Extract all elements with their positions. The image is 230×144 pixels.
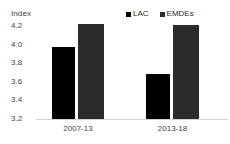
x-axis-tick-label: 2007-13 xyxy=(52,124,104,133)
legend-item-label: LAC xyxy=(133,10,149,18)
x-axis-line xyxy=(36,119,228,120)
x-axis-tick-label: 2013-18 xyxy=(146,124,199,133)
legend: LAC EMDEs xyxy=(126,10,194,18)
y-axis-tick-label: 3.8 xyxy=(11,58,33,67)
legend-item-lac[interactable]: LAC xyxy=(126,10,149,18)
bar-emdes-2007-13 xyxy=(78,24,104,119)
bar-lac-2013-18 xyxy=(146,74,170,119)
y-axis-tick-label: 3.6 xyxy=(11,77,33,86)
legend-swatch-icon xyxy=(160,12,165,17)
legend-item-label: EMDEs xyxy=(167,10,194,18)
y-axis-tick-label: 3.2 xyxy=(11,114,33,123)
bar-chart: Index 4.2 4.0 3.8 3.6 3.4 3.2 2007-13 20… xyxy=(0,0,230,144)
bar-emdes-2013-18 xyxy=(173,25,199,119)
y-axis-tick-label: 4.2 xyxy=(11,21,33,30)
plot-area xyxy=(36,20,226,119)
legend-swatch-icon xyxy=(126,12,131,17)
y-axis-tick-label: 3.4 xyxy=(11,95,33,104)
bar-lac-2007-13 xyxy=(52,47,75,119)
legend-item-emdes[interactable]: EMDEs xyxy=(160,10,194,18)
y-axis-title: Index xyxy=(11,9,31,18)
y-axis-tick-label: 4.0 xyxy=(11,40,33,49)
